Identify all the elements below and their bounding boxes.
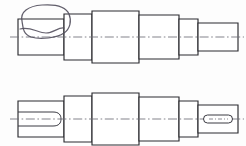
- stepped-shaft-drawing: [0, 0, 246, 146]
- top-view-step-3-largest: [92, 11, 139, 63]
- bottom-view-group: [10, 93, 244, 145]
- top-view-step-1-left-end: [18, 19, 64, 55]
- bottom-view-step-1-left-end: [18, 101, 64, 137]
- bottom-view-step-3-largest: [92, 93, 139, 145]
- engineering-drawing-canvas: [0, 0, 246, 146]
- top-view-group: [10, 5, 244, 63]
